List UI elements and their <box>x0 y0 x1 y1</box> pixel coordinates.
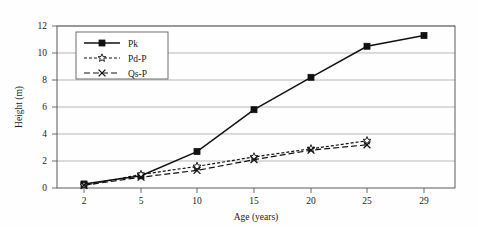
datapoint-0-4 <box>308 74 314 80</box>
xtick-label-2: 2 <box>82 196 87 206</box>
legend: Pk Pd-P Qs-P <box>76 32 168 79</box>
legend-label-pk: Pk <box>128 39 138 49</box>
legend-label-qsp: Qs-P <box>128 69 147 79</box>
series-pd-p <box>80 137 371 189</box>
legend-box <box>76 32 168 79</box>
chart-canvas: 0 2 4 6 8 10 12 Height (m) 2 5 10 15 20 <box>0 0 478 227</box>
line-chart-figure: 0 2 4 6 8 10 12 Height (m) 2 5 10 15 20 <box>0 0 478 227</box>
marker-star <box>363 137 371 145</box>
x-axis-tick-labels: 2 5 10 15 20 25 29 <box>82 196 429 206</box>
marker-square <box>364 43 370 49</box>
xtick-label-5: 5 <box>139 196 144 206</box>
xtick-label-29: 29 <box>419 196 429 206</box>
datapoint-1-5 <box>363 137 371 145</box>
datapoint-0-3 <box>251 107 257 113</box>
marker-square <box>194 149 200 155</box>
datapoint-0-5 <box>364 43 370 49</box>
ytick-label-4: 4 <box>42 129 47 139</box>
ytick-label-10: 10 <box>38 48 48 58</box>
ytick-label-12: 12 <box>38 21 48 31</box>
datapoint-1-2 <box>193 162 201 170</box>
marker-square <box>251 107 257 113</box>
ytick-label-2: 2 <box>42 156 47 166</box>
ytick-label-6: 6 <box>42 102 47 112</box>
xtick-label-25: 25 <box>362 196 372 206</box>
datapoint-0-2 <box>194 149 200 155</box>
x-axis-title: Age (years) <box>234 212 279 223</box>
marker-square <box>99 40 105 46</box>
xtick-label-10: 10 <box>192 196 202 206</box>
series-line-2 <box>84 145 367 186</box>
legend-label-pdp: Pd-P <box>128 54 146 64</box>
ytick-label-0: 0 <box>42 183 47 193</box>
marker-star <box>193 162 201 170</box>
datapoint-0-6 <box>421 32 427 38</box>
y-axis-tick-labels: 0 2 4 6 8 10 12 <box>38 21 48 193</box>
ytick-label-8: 8 <box>42 75 47 85</box>
xtick-label-15: 15 <box>249 196 259 206</box>
marker-square <box>308 74 314 80</box>
legend-marker-0 <box>99 40 105 46</box>
y-axis-ticks <box>52 26 57 188</box>
y-axis-title: Height (m) <box>14 86 25 128</box>
marker-square <box>421 32 427 38</box>
series-qs-p <box>81 141 371 188</box>
xtick-label-20: 20 <box>306 196 316 206</box>
x-axis-ticks <box>84 188 424 193</box>
